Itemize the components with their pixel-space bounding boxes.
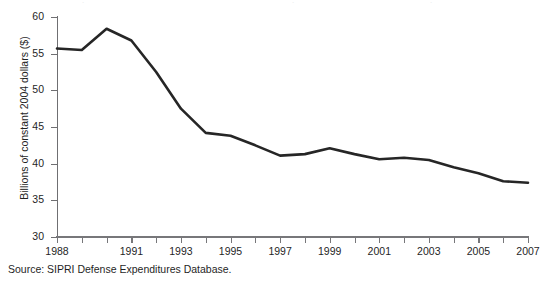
y-axis-tick-label: 45	[4, 120, 44, 132]
x-axis-tick	[305, 237, 306, 243]
x-axis-tick-label: 1997	[260, 245, 300, 257]
x-axis-tick	[330, 237, 331, 243]
x-axis-tick	[231, 237, 232, 243]
x-axis-tick	[528, 237, 529, 243]
source-caption: Source: SIPRI Defense Expenditures Datab…	[8, 263, 232, 275]
y-axis-tick	[51, 90, 58, 91]
y-axis-tick	[51, 17, 58, 18]
x-axis-tick	[355, 237, 356, 243]
y-axis-tick-label: 35	[4, 193, 44, 205]
x-axis-tick	[379, 237, 380, 243]
y-axis-tick	[51, 164, 58, 165]
x-axis-tick	[478, 237, 479, 243]
data-line-defense-expenditures	[57, 29, 528, 183]
x-axis-tick	[131, 237, 132, 243]
y-axis-tick-label: 30	[4, 230, 44, 242]
x-axis-tick-label: 1988	[37, 245, 77, 257]
x-axis-tick-label: 1991	[111, 245, 151, 257]
x-axis-tick	[404, 237, 405, 243]
x-axis-tick	[503, 237, 504, 243]
x-axis-tick-label: 2003	[409, 245, 449, 257]
y-axis-tick-label: 60	[4, 10, 44, 22]
x-axis-tick-label: 1995	[211, 245, 251, 257]
x-axis-tick-label: 1999	[310, 245, 350, 257]
y-axis-tick	[51, 127, 58, 128]
x-axis-tick-label: 2005	[458, 245, 498, 257]
x-axis-tick	[454, 237, 455, 243]
y-axis-tick	[51, 200, 58, 201]
x-axis-tick	[181, 237, 182, 243]
scan-artifact: ...	[0, 0, 542, 8]
y-axis-tick-label: 50	[4, 83, 44, 95]
x-axis-tick	[156, 237, 157, 243]
chart-figure: ... Billions of constant 2004 dollars ($…	[0, 0, 542, 282]
x-axis-tick-label: 1993	[161, 245, 201, 257]
y-axis-tick-label: 40	[4, 157, 44, 169]
y-axis-tick	[51, 54, 58, 55]
x-axis-tick	[57, 237, 58, 243]
x-axis-tick	[82, 237, 83, 243]
x-axis-tick	[429, 237, 430, 243]
x-axis-tick	[280, 237, 281, 243]
x-axis-tick	[107, 237, 108, 243]
x-axis-tick	[255, 237, 256, 243]
y-axis-tick-label: 55	[4, 47, 44, 59]
x-axis-tick-label: 2001	[359, 245, 399, 257]
x-axis-tick	[206, 237, 207, 243]
x-axis-line	[56, 236, 529, 238]
x-axis-tick-label: 2007	[508, 245, 542, 257]
